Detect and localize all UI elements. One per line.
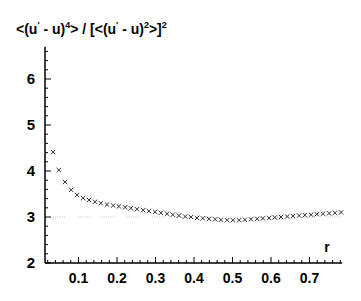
data-point-x-marker	[243, 218, 247, 222]
data-point-x-marker	[231, 218, 235, 222]
data-point-x-marker	[315, 212, 319, 216]
data-point-x-marker	[249, 217, 253, 221]
y-tick-label: 5	[27, 116, 35, 133]
data-point-x-marker	[255, 217, 259, 221]
data-point-x-marker	[105, 202, 109, 206]
chart-plot: 234560.10.20.30.40.50.60.7r	[0, 0, 361, 301]
data-point-x-marker	[87, 198, 91, 202]
data-point-x-marker	[153, 210, 157, 214]
x-tick-label: 0.5	[223, 270, 243, 286]
data-point-x-marker	[123, 205, 127, 209]
data-point-x-marker	[195, 216, 199, 220]
data-point-x-marker	[117, 204, 121, 208]
data-point-x-marker	[63, 180, 67, 184]
data-point-x-marker	[147, 209, 151, 213]
data-point-x-marker	[309, 213, 313, 217]
x-tick-label: 0.2	[107, 270, 127, 286]
data-point-x-marker	[141, 208, 145, 212]
x-tick-label: 0.1	[69, 270, 89, 286]
data-point-x-marker	[177, 213, 181, 217]
x-tick-label: 0.3	[146, 270, 166, 286]
data-point-x-marker	[165, 212, 169, 216]
axes: 234560.10.20.30.40.50.60.7r	[27, 47, 343, 286]
data-point-x-marker	[339, 210, 343, 214]
data-series	[51, 150, 343, 222]
data-point-x-marker	[219, 218, 223, 222]
data-point-x-marker	[69, 188, 73, 192]
data-point-x-marker	[51, 150, 55, 154]
data-point-x-marker	[57, 168, 61, 172]
data-point-x-marker	[171, 213, 175, 217]
data-point-x-marker	[207, 217, 211, 221]
y-tick-label: 2	[27, 254, 35, 271]
data-point-x-marker	[81, 196, 85, 200]
data-point-x-marker	[327, 211, 331, 215]
data-point-x-marker	[297, 213, 301, 217]
data-point-x-marker	[75, 193, 79, 197]
y-tick-label: 3	[27, 208, 35, 225]
data-point-x-marker	[99, 201, 103, 205]
data-point-x-marker	[237, 218, 241, 222]
data-point-x-marker	[111, 203, 115, 207]
data-point-x-marker	[321, 212, 325, 216]
x-tick-label: 0.7	[300, 270, 320, 286]
data-point-x-marker	[333, 211, 337, 215]
data-point-x-marker	[225, 218, 229, 222]
y-tick-label: 4	[27, 162, 36, 179]
data-point-x-marker	[159, 211, 163, 215]
data-point-x-marker	[93, 200, 97, 204]
y-tick-label: 6	[27, 70, 35, 87]
data-point-x-marker	[273, 215, 277, 219]
x-tick-label: 0.4	[184, 270, 204, 286]
data-point-x-marker	[213, 217, 217, 221]
x-tick-label: 0.6	[261, 270, 281, 286]
data-point-x-marker	[267, 216, 271, 220]
x-axis-label: r	[324, 239, 330, 255]
data-point-x-marker	[129, 206, 133, 210]
data-point-x-marker	[291, 214, 295, 218]
data-point-x-marker	[135, 207, 139, 211]
